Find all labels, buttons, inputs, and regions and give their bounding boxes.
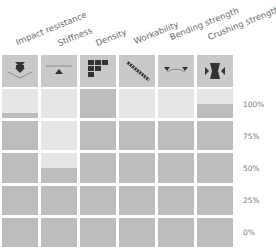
gridline: [0, 215, 237, 218]
tick-25: 25%: [243, 196, 260, 205]
bar-impact-resistance: [2, 89, 38, 247]
gridline: [0, 183, 237, 186]
bending-strength-icon: [158, 55, 194, 87]
bar-crushing-strength: [197, 89, 233, 247]
bar-stiffness: [41, 89, 77, 247]
density-icon: [80, 55, 116, 87]
bar-bending-strength: [158, 89, 194, 247]
tick-100: 100%: [243, 100, 264, 109]
bar-workability: [119, 89, 155, 247]
header-impact-resistance: Impact resistance: [14, 9, 88, 47]
tick-50: 50%: [243, 164, 260, 173]
tick-0: 0%: [243, 228, 255, 237]
tick-75: 75%: [243, 132, 260, 141]
workability-icon: [119, 55, 155, 87]
bar-density: [80, 89, 116, 247]
stiffness-icon: [41, 55, 77, 87]
header-density: Density: [94, 27, 128, 48]
gridline: [0, 150, 237, 153]
impact-resistance-icon: [2, 55, 38, 87]
crushing-strength-icon: [197, 55, 233, 87]
gridline: [0, 118, 237, 121]
